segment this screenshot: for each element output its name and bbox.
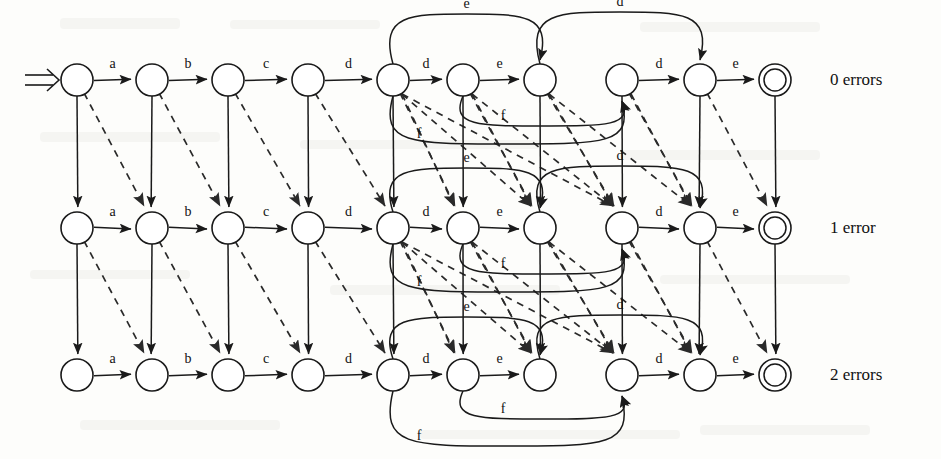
transition-label-d: d (423, 204, 430, 219)
paper-blotch (40, 132, 220, 142)
skip-arc-label-d: d (617, 148, 624, 163)
state-node (524, 212, 556, 244)
transition-edge (410, 227, 442, 229)
paper-blotch (700, 425, 870, 435)
transition-label-b: b (185, 351, 192, 366)
state-circle (61, 212, 93, 244)
substitution-edge (159, 241, 220, 353)
transition-label-e: e (732, 204, 738, 219)
state-node (292, 212, 324, 244)
state-node (759, 212, 791, 244)
state-circle (447, 64, 479, 96)
transition-edge (245, 227, 287, 229)
transition-edge (169, 374, 207, 375)
transition-label-d: d (423, 351, 430, 366)
skip-arc-label-d: d (617, 297, 624, 312)
deletion-edge (228, 96, 229, 207)
transition-edge (325, 374, 372, 375)
back-arc-label-f: f (417, 126, 422, 141)
transition-edge (94, 227, 131, 229)
deletion-edge (775, 96, 776, 207)
state-node (212, 359, 244, 391)
state-node (212, 64, 244, 96)
paper-blotch (80, 420, 280, 430)
state-node (606, 212, 638, 244)
transition-label-a: a (109, 56, 116, 71)
back-arc-label-f: f (417, 274, 422, 289)
transition-label-d: d (345, 204, 352, 219)
state-node (606, 359, 638, 391)
state-node (136, 64, 168, 96)
state-node (524, 359, 556, 391)
edge-labels: abcddedeabcddedeabcddedeedededffffff (109, 0, 738, 443)
state-circle (136, 212, 168, 244)
state-circle (684, 359, 716, 391)
state-circle (212, 359, 244, 391)
state-circle (292, 359, 324, 391)
state-node (524, 64, 556, 96)
back-arc-label-f: f (501, 256, 506, 271)
paper-blotch (30, 270, 190, 279)
substitution-edge (315, 241, 385, 353)
state-node (447, 359, 479, 391)
state-node (377, 64, 409, 96)
skip-arc-label-d: d (617, 0, 624, 9)
deletion-edge (77, 96, 78, 207)
state-circle (212, 212, 244, 244)
transition-label-d: d (345, 351, 352, 366)
substitution-edge-fan (402, 242, 454, 353)
substitution-edge (315, 93, 385, 206)
deletion-edge (393, 244, 394, 354)
transition-label-d: d (656, 204, 663, 219)
state-node (759, 64, 791, 96)
state-circle (212, 64, 244, 96)
state-node (61, 359, 93, 391)
transition-edge (245, 374, 287, 375)
state-circle (136, 64, 168, 96)
state-circle (524, 64, 556, 96)
state-node (377, 212, 409, 244)
automaton-diagram: abcddedeabcddedeabcddedeedededffffff (0, 0, 941, 459)
deletion-edge (540, 96, 541, 207)
paper-blotch (620, 150, 820, 160)
transition-edge (639, 79, 679, 80)
state-circle (606, 212, 638, 244)
transition-edge (94, 79, 131, 80)
state-circle (61, 359, 93, 391)
skip-arc-e (390, 168, 543, 212)
transition-label-e: e (732, 56, 738, 71)
state-circle (524, 212, 556, 244)
automaton-figure: abcddedeabcddedeabcddedeedededffffff 0 e… (0, 0, 941, 459)
state-circle (292, 64, 324, 96)
state-node (684, 64, 716, 96)
state-node (759, 359, 791, 391)
transition-edge (639, 374, 679, 375)
skip-arc-d (537, 166, 703, 212)
back-arc-f (390, 244, 624, 292)
state-node (684, 359, 716, 391)
transition-label-a: a (109, 351, 116, 366)
state-node (61, 212, 93, 244)
back-arc-f (460, 391, 624, 419)
paper-blotch (660, 275, 850, 284)
back-arc-f (390, 96, 624, 144)
substitution-edge (707, 241, 767, 353)
state-node (377, 359, 409, 391)
paper-blotch (230, 20, 380, 29)
skip-arc-d (537, 315, 703, 359)
transition-edge (169, 227, 207, 229)
paper-blotch (420, 430, 680, 439)
transition-label-c: c (263, 351, 269, 366)
state-node (684, 212, 716, 244)
back-arc-label-f: f (501, 401, 506, 416)
transition-edge (325, 79, 372, 80)
transition-label-d: d (656, 351, 663, 366)
transition-label-e: e (496, 351, 502, 366)
state-circle (684, 212, 716, 244)
back-arc-label-f: f (417, 428, 422, 443)
transition-label-d: d (423, 56, 430, 71)
substitution-edge-fan (402, 94, 454, 206)
paper-blotch (640, 22, 820, 32)
back-arc-label-f: f (501, 108, 506, 123)
deletion-edge (151, 96, 152, 207)
